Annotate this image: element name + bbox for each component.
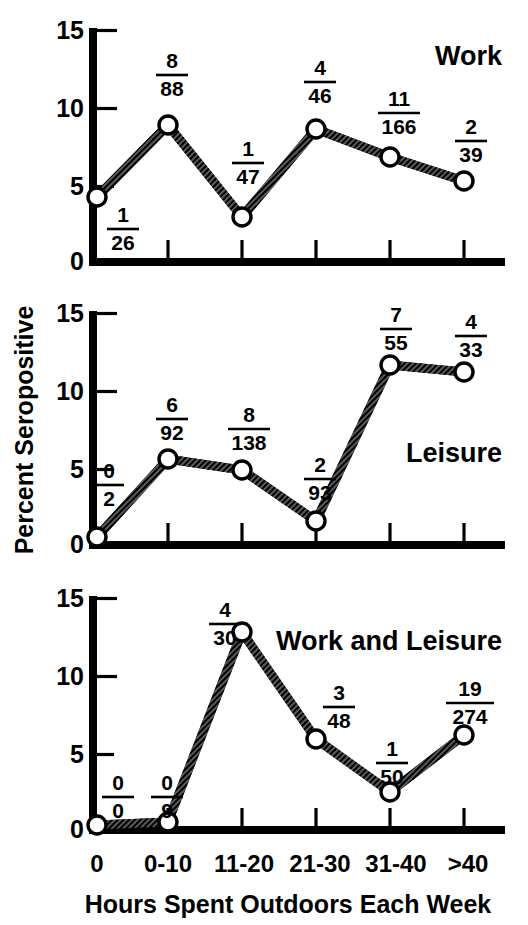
- panel-work-ytick-label-15: 15: [56, 16, 84, 44]
- seropositive-figure: 15 10 5 0 1 26: [0, 0, 528, 925]
- xtick-label-31-40: 31-40: [365, 850, 426, 877]
- panel-work-label-11-20: 1 47: [232, 137, 264, 188]
- fraction-denominator: 9: [161, 799, 173, 822]
- fraction-numerator: 6: [166, 393, 178, 416]
- panel-leisure-point-0[interactable]: [88, 528, 106, 546]
- fraction-numerator: 1: [117, 203, 129, 226]
- panel-title-leisure: Leisure: [406, 438, 502, 468]
- panel-leisure-point-31-40[interactable]: [381, 356, 399, 374]
- panel-work-point-31-40[interactable]: [381, 148, 399, 166]
- fraction-numerator: 2: [314, 453, 326, 476]
- fraction-denominator: 33: [459, 338, 482, 361]
- panel-work-label-21-30: 4 46: [304, 56, 336, 107]
- panel-work-ytick-label-5: 5: [70, 172, 84, 200]
- panel-work-and-leisure: 15 10 5 0 0 0 0: [56, 584, 505, 877]
- panel-wl-label-21-30: 3 48: [323, 681, 355, 732]
- fraction-numerator: 4: [314, 56, 326, 79]
- xtick-label-11-20: 11-20: [214, 850, 274, 877]
- xtick-label-21-30: 21-30: [289, 850, 350, 877]
- panel-leisure-point-11-20[interactable]: [233, 461, 251, 479]
- panel-work-series-line-texture: [97, 125, 464, 217]
- fraction-denominator: 55: [384, 331, 408, 354]
- panel-work-point-11-20[interactable]: [233, 208, 251, 226]
- fraction-numerator: 1: [386, 737, 398, 760]
- panel-work-label-31-40: 11 166: [378, 87, 420, 138]
- fraction-denominator: 166: [381, 115, 416, 138]
- fraction-denominator: 2: [103, 487, 115, 510]
- fraction-denominator: 26: [111, 231, 134, 254]
- fraction-denominator: 47: [236, 165, 259, 188]
- xtick-label-0: 0: [90, 850, 103, 877]
- panel-work-label-0-10: 8 88: [156, 49, 188, 100]
- panel-leisure-ytick-label-5: 5: [70, 455, 84, 483]
- fraction-denominator: 48: [327, 709, 351, 732]
- fraction-numerator: 4: [465, 310, 477, 333]
- fraction-numerator: 7: [390, 303, 402, 326]
- panel-work-y-axis: [89, 28, 97, 266]
- panel-leisure-label-21-30: 2 93: [304, 453, 336, 504]
- fraction-denominator: 138: [231, 431, 266, 454]
- panel-leisure-label-0-10: 6 92: [156, 393, 188, 444]
- fraction-numerator: 19: [458, 677, 481, 700]
- panel-wl-label-over-40: 19 274: [446, 677, 494, 728]
- y-axis-title: Percent Seropositive: [10, 306, 38, 555]
- panel-leisure-label-0: 0 2: [96, 459, 124, 510]
- panel-wl-ytick-label-15: 15: [56, 584, 84, 612]
- fraction-numerator: 0: [103, 459, 115, 482]
- panel-leisure: 15 10 5 0 0 2 6: [56, 299, 505, 558]
- panel-work-point-0-10[interactable]: [159, 116, 177, 134]
- panel-leisure-x-axis: [89, 541, 505, 549]
- panel-wl-ytick-label-5: 5: [70, 740, 84, 768]
- fraction-numerator: 8: [243, 403, 255, 426]
- fraction-denominator: 0: [112, 799, 124, 822]
- panel-wl-label-31-40: 1 50: [376, 737, 408, 788]
- chart-svg: 15 10 5 0 1 26: [0, 0, 528, 925]
- panel-work-point-0[interactable]: [88, 188, 106, 206]
- panel-title-work: Work: [435, 41, 503, 71]
- panel-leisure-ytick-label-0: 0: [70, 530, 84, 558]
- fraction-denominator: 88: [160, 77, 184, 100]
- panel-title-work-and-leisure: Work and Leisure: [276, 626, 502, 656]
- fraction-numerator: 0: [112, 771, 124, 794]
- panel-wl-ytick-label-0: 0: [70, 815, 84, 843]
- panel-leisure-point-0-10[interactable]: [159, 450, 177, 468]
- panel-work-point-21-30[interactable]: [307, 120, 325, 138]
- fraction-denominator: 30: [213, 626, 236, 649]
- panel-leisure-ytick-label-15: 15: [56, 299, 84, 327]
- xtick-label-0-10: 0-10: [144, 850, 192, 877]
- panel-wl-ytick-label-10: 10: [56, 662, 84, 690]
- fraction-numerator: 11: [388, 87, 411, 110]
- panel-work-x-axis: [89, 258, 505, 266]
- panel-wl-label-0-10: 0 9: [151, 771, 183, 822]
- panel-wl-point-over-40[interactable]: [455, 726, 473, 744]
- panel-wl-point-21-30[interactable]: [307, 730, 325, 748]
- fraction-denominator: 39: [459, 143, 482, 166]
- xtick-label-over-40: >40: [448, 850, 489, 877]
- fraction-denominator: 50: [380, 765, 403, 788]
- panel-leisure-label-31-40: 7 55: [380, 303, 412, 354]
- panel-work-label-over-40: 2 39: [455, 115, 487, 166]
- fraction-numerator: 0: [161, 771, 173, 794]
- panel-wl-label-11-20: 4 30: [209, 598, 241, 649]
- fraction-numerator: 4: [219, 598, 231, 621]
- fraction-numerator: 8: [166, 49, 178, 72]
- panel-work: 15 10 5 0 1 26: [56, 16, 505, 275]
- fraction-numerator: 3: [333, 681, 345, 704]
- panel-leisure-point-over-40[interactable]: [455, 363, 473, 381]
- panel-work-ytick-label-0: 0: [70, 247, 84, 275]
- panel-work-and-leisure-y-axis: [89, 596, 97, 834]
- panel-wl-point-0[interactable]: [88, 816, 106, 834]
- panel-wl-label-0: 0 0: [102, 771, 134, 822]
- fraction-denominator: 93: [308, 481, 331, 504]
- panel-leisure-ytick-label-10: 10: [56, 377, 84, 405]
- fraction-numerator: 2: [465, 115, 477, 138]
- panel-leisure-label-over-40: 4 33: [455, 310, 487, 361]
- x-axis-title: Hours Spent Outdoors Each Week: [85, 890, 492, 918]
- panel-work-label-0: 1 26: [107, 203, 139, 254]
- panel-work-point-over-40[interactable]: [455, 172, 473, 190]
- fraction-denominator: 46: [308, 84, 331, 107]
- fraction-denominator: 92: [160, 421, 183, 444]
- fraction-numerator: 1: [242, 137, 254, 160]
- panel-leisure-point-21-30[interactable]: [307, 512, 325, 530]
- fraction-denominator: 274: [452, 705, 487, 728]
